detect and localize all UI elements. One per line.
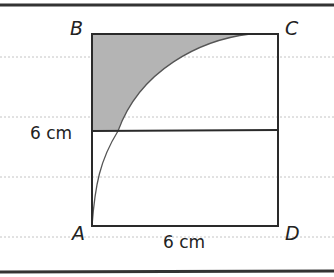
dimension-left: 6 cm (30, 123, 72, 143)
shaded-region (92, 34, 250, 131)
vertex-label-b: B (70, 17, 83, 39)
vertex-label-a: A (70, 222, 85, 244)
midline (92, 130, 278, 131)
vertex-label-d: D (285, 222, 300, 244)
ruled-lines (0, 57, 334, 237)
bottom-border (0, 271, 334, 272)
vertex-label-c: C (285, 17, 299, 39)
dimension-bottom: 6 cm (163, 232, 205, 252)
geometry-diagram: B C A D 6 cm 6 cm (0, 0, 334, 277)
